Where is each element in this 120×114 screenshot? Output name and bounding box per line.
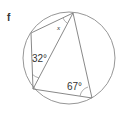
angle-label-67: 67° bbox=[67, 81, 82, 92]
cyclic-quadrilateral-diagram: x 32° 67° bbox=[0, 0, 120, 114]
diagonal bbox=[33, 13, 73, 89]
angle-label-32: 32° bbox=[32, 53, 47, 64]
angle-label-x: x bbox=[56, 24, 61, 32]
angle-arc-32 bbox=[32, 74, 39, 78]
angle-arc-x bbox=[63, 18, 67, 23]
